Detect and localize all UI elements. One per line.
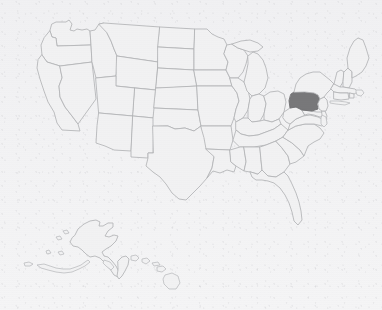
state-alabama[interactable] (244, 147, 262, 174)
alaska-small-island-3 (58, 251, 64, 255)
hawaii-big-island (163, 273, 180, 289)
state-rhode-island[interactable] (350, 93, 354, 98)
state-new-mexico[interactable] (131, 116, 154, 158)
state-florida[interactable] (250, 170, 302, 225)
alaska-group (24, 220, 129, 279)
alaska-small-island-1 (56, 236, 62, 240)
state-connecticut[interactable] (334, 92, 349, 100)
state-arizona[interactable] (96, 113, 133, 151)
hawaii-oahu (142, 258, 150, 264)
alaska-panhandle[interactable] (117, 256, 129, 279)
us-choropleth-map (0, 0, 382, 310)
state-iowa[interactable] (194, 70, 232, 86)
state-kansas[interactable] (154, 86, 198, 110)
hawaii-molokai (152, 262, 160, 266)
state-nebraska[interactable] (156, 68, 197, 88)
contiguous-states-group (37, 20, 369, 225)
state-arkansas[interactable] (201, 126, 233, 150)
us-map-svg (0, 0, 382, 310)
alaska-small-island-2 (63, 230, 69, 234)
hawaii-group (131, 255, 180, 289)
state-colorado[interactable] (133, 88, 156, 118)
state-south-dakota[interactable] (158, 47, 194, 70)
alaska-small-island-4 (46, 250, 51, 254)
cape-cod-landmass (356, 90, 364, 96)
state-missouri[interactable] (197, 86, 239, 126)
state-minnesota[interactable] (194, 29, 228, 70)
state-north-dakota[interactable] (158, 27, 195, 49)
state-indiana[interactable] (248, 94, 266, 122)
aleutian-islands-2 (37, 260, 90, 273)
delmarva-peninsula (321, 115, 327, 127)
hawaii-kauai (131, 255, 139, 261)
hawaii-maui (157, 266, 166, 272)
state-wyoming[interactable] (116, 56, 158, 90)
long-island-landmass (330, 101, 350, 105)
state-michigan-lower[interactable] (244, 52, 268, 96)
aleutian-islands (24, 262, 33, 266)
